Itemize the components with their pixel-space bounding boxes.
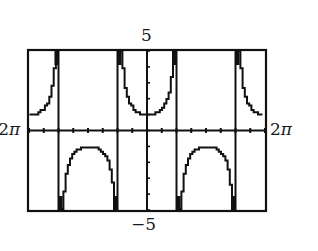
graph-plot xyxy=(0,0,318,251)
axes xyxy=(29,51,265,210)
